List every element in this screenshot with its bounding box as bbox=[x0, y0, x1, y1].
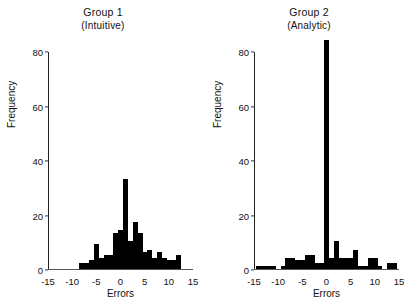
y-axis-label-group-1: Frequency bbox=[6, 81, 17, 128]
x-tick-label: -5 bbox=[92, 276, 100, 287]
x-tick-label: 15 bbox=[394, 276, 405, 287]
x-tick-label: 5 bbox=[348, 276, 353, 287]
y-tick-label: 80 bbox=[238, 47, 249, 58]
chart-panel-group-1: Group 1 (Intuitive) Frequency 020406080 … bbox=[0, 0, 206, 307]
y-tick-label: 80 bbox=[32, 47, 43, 58]
y-tick-label: 40 bbox=[32, 156, 43, 167]
panel-title-main: Group 2 bbox=[289, 6, 328, 18]
x-tick-label: 10 bbox=[164, 276, 175, 287]
x-axis-line-group-2 bbox=[254, 269, 399, 270]
x-tick-label: 0 bbox=[324, 276, 329, 287]
histogram-bar bbox=[392, 263, 397, 268]
panel-title-group-2: Group 2 (Analytic) bbox=[206, 6, 412, 32]
y-tick-mark bbox=[45, 51, 49, 52]
histogram-bar bbox=[377, 266, 382, 269]
histogram-figure: Group 1 (Intuitive) Frequency 020406080 … bbox=[0, 0, 412, 307]
y-tick-label: 20 bbox=[32, 210, 43, 221]
y-axis-line-group-1 bbox=[48, 52, 49, 270]
plot-area-group-1: 020406080 -15-10-5051015 bbox=[48, 52, 193, 270]
panel-title-sub: (Intuitive) bbox=[0, 19, 206, 32]
y-tick-label: 60 bbox=[238, 101, 249, 112]
x-tick-label: 0 bbox=[118, 276, 123, 287]
panel-title-group-1: Group 1 (Intuitive) bbox=[0, 6, 206, 32]
x-tick-label: -15 bbox=[41, 276, 55, 287]
y-tick-mark bbox=[45, 106, 49, 107]
y-tick-mark bbox=[251, 269, 255, 270]
x-axis-label-group-2: Errors bbox=[254, 288, 399, 299]
y-tick-label: 60 bbox=[32, 101, 43, 112]
x-axis-line-group-1 bbox=[48, 269, 193, 270]
y-tick-mark bbox=[251, 215, 255, 216]
y-axis-line-group-2 bbox=[254, 52, 255, 270]
y-tick-mark bbox=[45, 269, 49, 270]
x-tick-label: 10 bbox=[370, 276, 381, 287]
x-axis-label-group-1: Errors bbox=[48, 288, 193, 299]
panel-title-sub: (Analytic) bbox=[206, 19, 412, 32]
y-tick-label: 0 bbox=[38, 265, 43, 276]
x-tick-label: -5 bbox=[298, 276, 306, 287]
histogram-bar bbox=[324, 40, 329, 269]
plot-area-group-2: 020406080 -15-10-5051015 bbox=[254, 52, 399, 270]
panel-title-main: Group 1 bbox=[83, 6, 122, 18]
y-tick-mark bbox=[45, 215, 49, 216]
y-tick-mark bbox=[45, 160, 49, 161]
x-tick-label: -10 bbox=[271, 276, 285, 287]
chart-panel-group-2: Group 2 (Analytic) Frequency 020406080 -… bbox=[206, 0, 412, 307]
y-tick-mark bbox=[251, 51, 255, 52]
x-tick-label: 5 bbox=[142, 276, 147, 287]
y-axis-label-group-2: Frequency bbox=[212, 81, 223, 128]
x-tick-label: -15 bbox=[247, 276, 261, 287]
x-tick-label: 15 bbox=[188, 276, 199, 287]
y-tick-mark bbox=[251, 160, 255, 161]
y-tick-mark bbox=[251, 106, 255, 107]
y-tick-label: 20 bbox=[238, 210, 249, 221]
x-tick-label: -10 bbox=[65, 276, 79, 287]
y-tick-label: 0 bbox=[244, 265, 249, 276]
histogram-bar bbox=[176, 255, 181, 269]
y-tick-label: 40 bbox=[238, 156, 249, 167]
histogram-bar bbox=[271, 266, 276, 269]
